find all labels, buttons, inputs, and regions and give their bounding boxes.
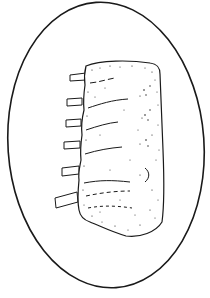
roast-body bbox=[78, 61, 164, 236]
illustration: Line illustration of a rib roast (rack o… bbox=[0, 0, 210, 298]
